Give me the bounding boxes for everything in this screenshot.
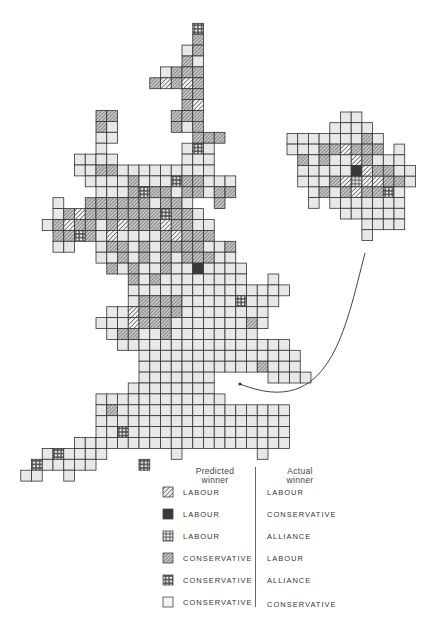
cell-conservative-labour [128,329,139,340]
cell-conservative-conservative [257,405,268,416]
cell-conservative-labour [75,220,86,231]
legend-swatches [163,487,173,607]
cell-conservative-conservative [308,155,319,166]
cell-conservative-conservative [107,394,118,405]
cell-conservative-conservative [193,318,204,329]
cell-conservative-conservative [236,405,247,416]
cell-conservative-labour [139,241,150,252]
cell-conservative-labour [373,166,384,177]
cell-conservative-labour [383,176,394,187]
cell-conservative-conservative [236,350,247,361]
cell-conservative-labour [85,198,96,209]
cell-conservative-conservative [161,405,172,416]
cell-conservative-conservative [319,166,330,177]
cell-conservative-conservative [394,144,405,155]
cell-labour-labour [118,220,129,231]
cell-conservative-conservative [85,176,96,187]
cell-conservative-conservative [182,198,193,209]
cell-conservative-conservative [75,154,86,165]
cell-conservative-conservative [204,416,215,427]
cell-conservative-conservative [182,372,193,383]
cell-conservative-conservative [214,307,225,318]
cell-conservative-conservative [150,285,161,296]
cell-conservative-conservative [64,448,75,459]
cell-conservative-labour [107,198,118,209]
cell-conservative-conservative [268,361,279,372]
cell-conservative-conservative [225,339,236,350]
cell-conservative-labour [204,252,215,263]
cell-conservative-labour [373,144,384,155]
cell-conservative-conservative [96,416,107,427]
cell-conservative-labour [128,263,139,274]
cell-conservative-alliance [118,427,129,438]
cell-conservative-conservative [118,176,129,187]
cell-conservative-conservative [394,187,405,198]
cell-conservative-conservative [150,252,161,263]
cell-conservative-conservative [236,438,247,449]
cell-conservative-conservative [308,133,319,144]
cell-conservative-conservative [118,416,129,427]
cell-conservative-conservative [279,438,290,449]
cell-conservative-conservative [139,438,150,449]
cell-conservative-conservative [193,427,204,438]
cell-conservative-conservative [150,372,161,383]
cell-conservative-conservative [373,208,384,219]
cell-conservative-conservative [182,45,193,56]
cell-conservative-labour [394,176,405,187]
cell-conservative-conservative [150,383,161,394]
cell-conservative-conservative [247,329,258,340]
cell-conservative-conservative [182,427,193,438]
cell-conservative-conservative [279,339,290,350]
cell-conservative-conservative [214,241,225,252]
cell-conservative-conservative [118,438,129,449]
cell-conservative-conservative [182,438,193,449]
cell-conservative-labour [161,296,172,307]
cell-labour-labour [64,220,75,231]
cell-conservative-conservative [204,285,215,296]
cell-conservative-alliance [383,187,394,198]
cell-conservative-conservative [279,350,290,361]
cell-conservative-labour [193,252,204,263]
cell-conservative-conservative [330,123,341,134]
cell-conservative-labour [64,230,75,241]
cell-conservative-conservative [150,339,161,350]
cell-conservative-conservative [161,416,172,427]
cell-conservative-conservative [247,350,258,361]
cell-conservative-conservative [268,296,279,307]
cell-conservative-conservative [383,198,394,209]
cell-conservative-conservative [204,220,215,231]
cell-conservative-conservative [139,372,150,383]
cell-conservative-labour [118,329,129,340]
cell-conservative-conservative [279,361,290,372]
cell-conservative-conservative [75,165,86,176]
cell-labour-labour [341,176,352,187]
cell-conservative-conservative [107,154,118,165]
cell-conservative-labour [182,230,193,241]
cell-conservative-conservative [204,350,215,361]
cell-conservative-conservative [96,176,107,187]
cell-conservative-conservative [214,329,225,340]
cell-conservative-conservative [204,394,215,405]
cell-conservative-conservative [214,263,225,274]
cell-conservative-labour [150,220,161,231]
cell-conservative-conservative [204,438,215,449]
cell-conservative-labour [128,274,139,285]
cell-conservative-conservative [225,427,236,438]
cell-conservative-conservative [128,252,139,263]
cell-conservative-labour [319,187,330,198]
cell-conservative-labour [96,198,107,209]
cell-conservative-labour [96,121,107,132]
cell-conservative-conservative [193,56,204,67]
cell-conservative-conservative [204,405,215,416]
cell-conservative-labour [193,176,204,187]
cell-conservative-conservative [128,394,139,405]
cell-conservative-conservative [225,252,236,263]
cell-conservative-conservative [96,230,107,241]
cell-conservative-labour [247,318,258,329]
cell-conservative-conservative [204,307,215,318]
cell-conservative-conservative [139,394,150,405]
cell-conservative-conservative [96,427,107,438]
cell-conservative-conservative [362,123,373,134]
cell-labour-labour [351,187,362,198]
cell-conservative-conservative [171,252,182,263]
